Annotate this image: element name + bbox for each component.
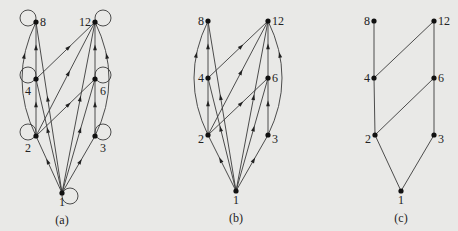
- node-label-12: 12: [79, 15, 91, 29]
- node-label-4: 4: [364, 71, 370, 85]
- edge-4-to-12: [374, 21, 434, 78]
- node-label-8: 8: [198, 14, 204, 28]
- edge-1-to-2-arrow: [46, 159, 50, 165]
- node-4: [33, 76, 38, 81]
- node-2: [372, 132, 377, 137]
- edge-1-to-3: [401, 135, 434, 191]
- node-4: [371, 75, 376, 80]
- edge-2-to-6: [375, 78, 434, 135]
- node-3: [92, 133, 97, 138]
- edge-1-to-3: [62, 136, 95, 193]
- loop-8: [20, 10, 36, 26]
- edge-2-to-12-arrow: [66, 70, 70, 76]
- edge-1-to-4-arrow: [46, 127, 50, 133]
- edge-1-to-8-arrow: [46, 96, 50, 102]
- caption-b: (b): [229, 211, 243, 225]
- node-label-3: 3: [100, 141, 106, 155]
- node-8: [205, 18, 210, 23]
- node-label-8: 8: [364, 14, 370, 28]
- node-label-6: 6: [100, 84, 106, 98]
- node-8: [371, 18, 376, 23]
- edge-1-to-2: [375, 135, 401, 191]
- edge-2-to-6: [36, 79, 95, 136]
- node-4: [205, 75, 210, 80]
- panel-c-hasse-diagram: 12346812: [364, 14, 450, 207]
- node-label-2: 2: [198, 132, 204, 146]
- node-3: [265, 132, 270, 137]
- node-label-3: 3: [438, 132, 444, 146]
- node-8: [33, 19, 38, 24]
- caption-c: (c): [394, 211, 407, 225]
- node-12: [92, 19, 97, 24]
- node-6: [265, 75, 270, 80]
- edge-1-to-4: [36, 79, 62, 193]
- node-label-12: 12: [272, 14, 284, 28]
- edge-1-to-8: [36, 22, 62, 193]
- edge-1-to-6: [62, 79, 95, 193]
- edge-1-to-3-arrow: [77, 159, 82, 165]
- edge-1-to-3: [236, 135, 268, 191]
- caption-a: (a): [55, 213, 68, 227]
- edge-4-to-8-arrow: [34, 44, 38, 50]
- edge-1-to-8: [208, 21, 236, 191]
- edge-4-to-12: [36, 22, 95, 79]
- node-2: [205, 132, 210, 137]
- edge-6-to-12-arrow: [266, 43, 270, 49]
- node-label-6: 6: [272, 71, 278, 85]
- node-label-1: 1: [59, 195, 65, 209]
- node-12: [431, 18, 436, 23]
- edge-1-to-2-arrow: [219, 157, 223, 163]
- edge-2-to-12-arrow: [238, 69, 242, 75]
- node-2: [33, 133, 38, 138]
- edge-2-to-6: [208, 78, 268, 135]
- node-6: [92, 76, 97, 81]
- edge-1-to-4-arrow: [219, 126, 223, 132]
- node-3: [431, 132, 436, 137]
- edge-2-to-4-arrow: [206, 100, 210, 106]
- node-label-4: 4: [25, 84, 31, 98]
- node-label-1: 1: [398, 193, 404, 207]
- edge-1-to-4: [208, 78, 236, 191]
- edge-6-to-12-arrow: [93, 44, 97, 50]
- divisibility-diagram-figure: 12346812 12346812 12346812 (a) (b) (c): [0, 0, 458, 231]
- node-label-12: 12: [438, 14, 450, 28]
- edge-1-to-6-arrow: [251, 126, 255, 132]
- loop-3: [95, 124, 111, 140]
- loop-12: [95, 10, 111, 26]
- node-6: [431, 75, 436, 80]
- node-label-2: 2: [365, 132, 371, 146]
- edge-2-to-4: [374, 78, 375, 135]
- edge-3-to-6-arrow: [266, 100, 270, 106]
- node-label-8: 8: [40, 15, 46, 29]
- node-12: [265, 18, 270, 23]
- edge-4-to-8-arrow: [206, 43, 210, 49]
- node-label-3: 3: [272, 132, 278, 146]
- node-label-4: 4: [198, 71, 204, 85]
- panel-a-digraph-with-loops: 12346812: [20, 10, 111, 209]
- node-label-6: 6: [438, 71, 444, 85]
- edge-1-to-6-arrow: [78, 127, 82, 133]
- edge-1-to-3-arrow: [251, 157, 256, 163]
- edge-1-to-8-arrow: [219, 94, 223, 100]
- panel-b-digraph-without-loops: 12346812: [194, 14, 284, 207]
- node-label-2: 2: [25, 141, 31, 155]
- edge-2-to-4-arrow: [34, 101, 38, 107]
- node-label-1: 1: [233, 193, 239, 207]
- edge-3-to-6-arrow: [93, 101, 97, 107]
- edge-1-to-6: [236, 78, 268, 191]
- loop-2: [20, 124, 36, 140]
